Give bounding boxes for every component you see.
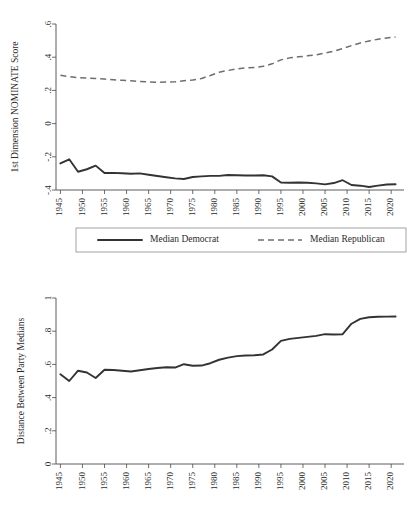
x-tick-label-0-2: 1955 xyxy=(99,198,109,217)
x-tick-label-1-3: 1960 xyxy=(121,472,131,491)
x-tick-label-1-7: 1980 xyxy=(209,472,219,491)
x-tick-label-0-8: 1985 xyxy=(231,198,241,217)
x-tick-label-1-15: 2020 xyxy=(385,472,395,491)
party-distance-chart-panel: 0.2.4.6.81194519501955196019651970197519… xyxy=(0,260,417,516)
x-tick-label-0-13: 2010 xyxy=(341,198,351,217)
y-axis-title-0: 1st Dimension NOMINATE Score xyxy=(10,41,20,172)
x-tick-label-1-5: 1970 xyxy=(165,472,175,491)
x-tick-label-1-2: 1955 xyxy=(99,472,109,491)
y-tick-label-1-1: .2 xyxy=(43,427,53,434)
y-tick-label-0-2: 0 xyxy=(43,121,53,126)
series-line-median-republican xyxy=(60,37,395,82)
x-tick-label-0-11: 2000 xyxy=(297,198,307,217)
x-tick-label-1-1: 1950 xyxy=(77,472,87,491)
x-tick-label-1-10: 1995 xyxy=(275,472,285,491)
y-axis-title-1: Distance Between Party Medians xyxy=(16,318,26,445)
y-tick-label-0-3: .2 xyxy=(43,87,53,94)
y-tick-label-1-3: .6 xyxy=(43,361,53,368)
x-tick-label-0-0: 1945 xyxy=(54,198,64,217)
y-tick-label-1-2: .4 xyxy=(43,394,53,401)
nominate-score-chart-panel: -.4-.20.2.4.6194519501955196019651970197… xyxy=(0,0,417,260)
x-tick-label-1-8: 1985 xyxy=(231,472,241,491)
x-tick-label-1-9: 1990 xyxy=(253,472,263,491)
x-tick-label-1-11: 2000 xyxy=(297,472,307,491)
y-tick-label-0-4: .4 xyxy=(43,53,53,60)
series-line-median-democrat xyxy=(60,159,395,187)
y-tick-label-1-5: 1 xyxy=(43,296,53,301)
x-tick-label-0-14: 2015 xyxy=(363,198,373,217)
x-tick-label-1-0: 1945 xyxy=(54,472,64,491)
x-tick-label-1-4: 1965 xyxy=(143,472,153,491)
x-tick-label-0-15: 2020 xyxy=(385,198,395,217)
x-tick-label-1-12: 2005 xyxy=(319,472,329,491)
x-tick-label-0-7: 1980 xyxy=(209,198,219,217)
x-tick-label-0-3: 1960 xyxy=(121,198,131,217)
nominate-score-chart: -.4-.20.2.4.6194519501955196019651970197… xyxy=(0,0,417,260)
x-tick-label-0-5: 1970 xyxy=(165,198,175,217)
x-tick-label-0-10: 1995 xyxy=(275,198,285,217)
x-tick-label-0-1: 1950 xyxy=(77,198,87,217)
x-tick-label-0-9: 1990 xyxy=(253,198,263,217)
y-tick-label-1-4: .8 xyxy=(43,327,53,334)
legend-label-1: Median Republican xyxy=(310,234,385,244)
party-distance-chart: 0.2.4.6.81194519501955196019651970197519… xyxy=(0,260,417,516)
series-line-distance-between-party-medians xyxy=(60,316,395,381)
x-tick-label-0-4: 1965 xyxy=(143,198,153,217)
legend-label-0: Median Democrat xyxy=(150,234,219,244)
y-tick-label-0-0: -.4 xyxy=(43,185,53,195)
y-tick-label-0-1: -.2 xyxy=(43,152,53,162)
x-tick-label-0-12: 2005 xyxy=(319,198,329,217)
x-tick-label-1-14: 2015 xyxy=(363,472,373,491)
y-tick-label-0-5: .6 xyxy=(43,20,53,27)
x-tick-label-1-6: 1975 xyxy=(187,472,197,491)
x-tick-label-1-13: 2010 xyxy=(341,472,351,491)
x-tick-label-0-6: 1975 xyxy=(187,198,197,217)
y-tick-label-1-0: 0 xyxy=(43,461,53,466)
